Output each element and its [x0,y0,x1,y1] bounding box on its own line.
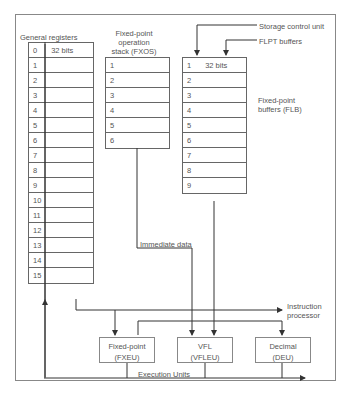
connection-wires [0,0,358,399]
